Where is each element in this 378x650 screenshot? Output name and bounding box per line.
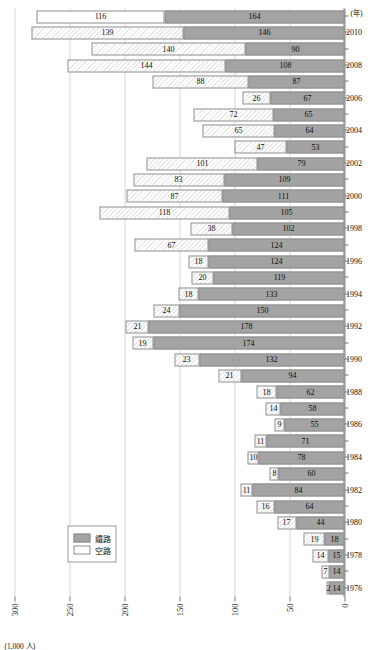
value-axis-unit-label: (1,000 人)	[4, 639, 35, 650]
bar-value-label-air: 11	[256, 437, 264, 445]
bar-column	[174, 353, 345, 366]
bar-value-label-rail: 102	[282, 225, 294, 233]
bar-value-label-air: 14	[269, 404, 277, 412]
value-axis-tick	[344, 596, 345, 601]
category-axis-label: 1988	[346, 387, 362, 396]
bar-value-label-rail: 58	[308, 404, 316, 412]
bar-value-label-rail: 150	[256, 306, 268, 314]
category-axis-tick	[344, 538, 348, 539]
value-gridline	[179, 8, 180, 596]
value-axis-label: 300	[9, 603, 19, 616]
bar-value-label-air: 11	[242, 486, 250, 494]
bar-value-label-rail: 119	[273, 274, 285, 282]
bar-value-label-air: 140	[162, 45, 174, 53]
bar-value-label-rail: 84	[294, 486, 302, 494]
value-axis-tick	[69, 596, 70, 601]
category-axis-label: 1984	[346, 453, 362, 462]
bar-value-label-air: 23	[182, 355, 190, 363]
category-axis-label: 1990	[346, 355, 362, 364]
bar-value-label-rail: 18	[330, 535, 338, 543]
value-axis-label: 200	[119, 603, 129, 616]
bar-value-label-rail: 55	[310, 421, 318, 429]
bar-value-label-air: 67	[167, 241, 175, 249]
legend-swatch-air	[73, 545, 90, 554]
bar-value-label-rail: 111	[277, 192, 288, 200]
legend-item[interactable]: 空路	[73, 544, 110, 555]
bar-value-label-air: 83	[174, 176, 182, 184]
category-axis-label: 1986	[346, 420, 362, 429]
bar-value-label-air: 19	[310, 535, 318, 543]
category-axis-label: 2010	[346, 28, 362, 37]
bar-column	[152, 75, 345, 88]
bar-column	[191, 271, 344, 284]
bar-column	[134, 238, 344, 251]
bar-value-label-air: 14	[316, 551, 324, 559]
category-axis-tick	[344, 179, 348, 180]
bar-column	[193, 108, 344, 121]
bar-value-label-air: 17	[282, 519, 290, 527]
category-axis-tick	[344, 113, 348, 114]
bar-value-label-rail: 53	[311, 143, 319, 151]
bar-column	[202, 124, 344, 137]
bar-value-label-rail: 67	[303, 94, 311, 102]
bar-value-label-rail: 79	[297, 159, 305, 167]
bar-value-label-rail: 109	[278, 176, 290, 184]
bar-value-label-air: 118	[158, 208, 170, 216]
bar-value-label-rail: 124	[270, 257, 282, 265]
legend-item[interactable]: 鐵路	[73, 532, 110, 543]
category-axis-tick	[344, 244, 348, 245]
value-gridline	[14, 8, 15, 596]
bar-value-label-air: 10	[249, 453, 257, 461]
bar-value-label-air: 144	[140, 61, 152, 69]
category-axis-label: 1978	[346, 551, 362, 560]
chart-legend: 鐵路空路	[67, 525, 116, 562]
bar-value-label-rail: 105	[280, 208, 292, 216]
category-axis-tick	[344, 211, 348, 212]
category-axis-label: 2004	[346, 126, 362, 135]
bar-value-label-air: 88	[196, 78, 204, 86]
bar-column	[234, 140, 344, 153]
bar-column	[274, 418, 344, 431]
bar-value-label-air: 20	[198, 274, 206, 282]
bar-value-label-rail: 14	[332, 584, 340, 592]
bar-value-label-air: 116	[94, 12, 106, 20]
category-axis-label: 2002	[346, 159, 362, 168]
category-axis-label: 1992	[346, 322, 362, 331]
category-axis-tick	[344, 48, 348, 49]
bar-column	[133, 173, 344, 186]
value-axis-label: 50	[284, 603, 294, 612]
value-axis-tick	[14, 596, 15, 601]
legend-swatch-rail	[73, 533, 90, 542]
bar-value-label-rail: 15	[332, 551, 340, 559]
bar-value-label-air: 101	[196, 159, 208, 167]
value-gridline	[234, 8, 235, 596]
category-axis-label: 1976	[346, 583, 362, 592]
bar-value-label-air: 24	[162, 306, 170, 314]
bar-value-label-rail: 178	[240, 323, 252, 331]
bar-value-label-air: 18	[194, 257, 202, 265]
bar-value-label-rail: 62	[306, 388, 314, 396]
category-axis-tick	[344, 15, 348, 16]
bar-value-label-air: 16	[261, 502, 269, 510]
category-axis-label: 2000	[346, 191, 362, 200]
bar-value-label-air: 26	[252, 94, 260, 102]
bar-value-label-rail: 94	[288, 372, 296, 380]
legend-label: 空路	[94, 544, 110, 555]
bar-value-label-air: 87	[170, 192, 178, 200]
bar-value-label-rail: 87	[292, 78, 300, 86]
bar-column	[153, 304, 344, 317]
category-axis-tick	[344, 375, 348, 376]
category-axis-label: 1996	[346, 257, 362, 266]
bar-value-label-air: 38	[207, 225, 215, 233]
bar-value-label-air: 21	[133, 323, 141, 331]
bar-value-label-rail: 71	[301, 437, 309, 445]
bar-value-label-rail: 133	[265, 290, 277, 298]
bar-value-label-air: 139	[101, 29, 113, 37]
bar-column	[67, 59, 344, 72]
bar-column	[188, 255, 344, 268]
bar-column	[240, 483, 345, 496]
bar-value-label-rail: 90	[291, 45, 299, 53]
bar-value-label-air: 19	[138, 339, 146, 347]
bar-value-label-rail: 124	[270, 241, 282, 249]
